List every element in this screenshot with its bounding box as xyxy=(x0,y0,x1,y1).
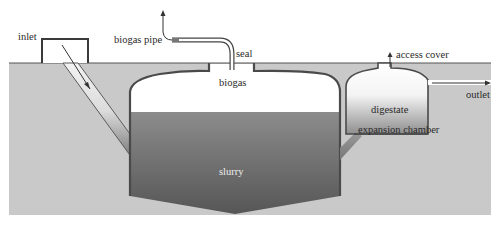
digester-slurry xyxy=(130,112,340,214)
label-expansion-chamber: expansion chamber xyxy=(358,124,440,135)
label-inlet: inlet xyxy=(18,31,37,42)
label-digestate: digestate xyxy=(371,104,409,115)
biogas-pipe-arrow-icon xyxy=(161,10,173,40)
label-biogas-pipe: biogas pipe xyxy=(114,34,162,45)
biogas-digester-diagram: inlet biogas pipe seal biogas access cov… xyxy=(0,0,503,235)
label-outlet: outlet xyxy=(466,89,490,100)
label-access-cover: access cover xyxy=(396,49,449,60)
label-seal: seal xyxy=(236,48,252,59)
label-biogas: biogas xyxy=(219,77,246,88)
label-slurry: slurry xyxy=(219,166,244,177)
inlet-box xyxy=(42,39,88,63)
